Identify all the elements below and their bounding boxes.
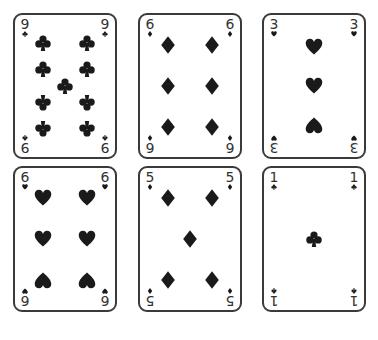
heart-icon: [78, 230, 96, 248]
card-corner-index: 9: [98, 17, 112, 37]
diamond-icon: [203, 271, 221, 289]
playing-card-6-of-hearts[interactable]: 6666: [13, 166, 117, 312]
card-corner-index: 3: [347, 17, 361, 37]
card-rank-label: 6: [98, 294, 112, 308]
card-corner-index: 1: [267, 288, 281, 308]
club-icon: [78, 94, 96, 112]
card-corner-index: 1: [347, 288, 361, 308]
diamond-icon: [159, 77, 177, 95]
club-icon: [78, 60, 96, 78]
card-rank-label: 3: [347, 141, 361, 155]
club-icon: [56, 77, 74, 95]
card-corner-index: 5: [223, 170, 237, 190]
card-corner-index: 6: [98, 288, 112, 308]
playing-card-3-of-hearts[interactable]: 3333: [262, 13, 366, 159]
diamond-icon: [203, 189, 221, 207]
card-rank-label: 9: [18, 141, 32, 155]
card-corner-index: 9: [18, 135, 32, 155]
card-corner-index: 6: [223, 17, 237, 37]
heart-icon: [305, 77, 323, 95]
diamond-icon: [203, 118, 221, 136]
card-rank-label: 9: [98, 17, 112, 31]
card-rank-label: 5: [143, 294, 157, 308]
card-rank-label: 9: [98, 141, 112, 155]
card-rank-label: 1: [347, 170, 361, 184]
card-corner-index: 5: [143, 170, 157, 190]
playing-card-1-of-clubs[interactable]: 1111: [262, 166, 366, 312]
club-icon: [34, 120, 52, 138]
diamond-icon: [159, 36, 177, 54]
diamond-icon: [203, 77, 221, 95]
card-corner-index: 3: [347, 135, 361, 155]
diamond-icon: [203, 36, 221, 54]
card-rank-label: 3: [267, 17, 281, 31]
card-rank-label: 3: [267, 141, 281, 155]
club-icon: [305, 230, 323, 248]
heart-icon: [78, 189, 96, 207]
heart-icon: [305, 38, 323, 56]
card-rank-label: 6: [143, 141, 157, 155]
card-rank-label: 3: [347, 17, 361, 31]
card-rank-label: 6: [143, 17, 157, 31]
card-rank-label: 6: [18, 170, 32, 184]
card-corner-index: 6: [143, 135, 157, 155]
card-corner-index: 5: [143, 288, 157, 308]
card-rank-label: 1: [267, 170, 281, 184]
diamond-icon: [159, 189, 177, 207]
card-corner-index: 6: [223, 135, 237, 155]
card-rank-label: 9: [18, 17, 32, 31]
diamond-icon: [159, 271, 177, 289]
heart-icon: [78, 271, 96, 289]
card-corner-index: 3: [267, 135, 281, 155]
card-rank-label: 6: [223, 141, 237, 155]
heart-icon: [34, 271, 52, 289]
card-rank-label: 1: [267, 294, 281, 308]
card-corner-index: 1: [347, 170, 361, 190]
card-corner-index: 5: [223, 288, 237, 308]
playing-card-5-of-diamonds[interactable]: 5555: [138, 166, 242, 312]
card-corner-index: 1: [267, 170, 281, 190]
heart-icon: [305, 116, 323, 134]
card-corner-index: 6: [98, 170, 112, 190]
heart-icon: [34, 230, 52, 248]
card-corner-index: 9: [98, 135, 112, 155]
diamond-icon: [159, 118, 177, 136]
club-icon: [34, 94, 52, 112]
card-rank-label: 1: [347, 294, 361, 308]
card-corner-index: 6: [18, 170, 32, 190]
card-rank-label: 5: [143, 170, 157, 184]
heart-icon: [34, 189, 52, 207]
card-rank-label: 6: [18, 294, 32, 308]
card-rank-label: 6: [98, 170, 112, 184]
card-corner-index: 6: [143, 17, 157, 37]
card-rank-label: 5: [223, 170, 237, 184]
playing-card-6-of-diamonds[interactable]: 6666: [138, 13, 242, 159]
card-corner-index: 3: [267, 17, 281, 37]
club-icon: [34, 60, 52, 78]
card-rank-label: 6: [223, 17, 237, 31]
card-rank-label: 5: [223, 294, 237, 308]
playing-card-9-of-clubs[interactable]: 9999: [13, 13, 117, 159]
club-icon: [34, 34, 52, 52]
club-icon: [78, 34, 96, 52]
diamond-icon: [181, 230, 199, 248]
card-corner-index: 6: [18, 288, 32, 308]
club-icon: [78, 120, 96, 138]
card-corner-index: 9: [18, 17, 32, 37]
